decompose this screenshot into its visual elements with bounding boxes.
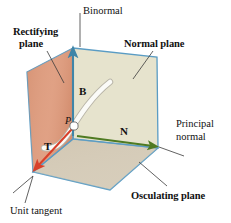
normal-plane-label: Normal plane	[124, 38, 184, 49]
vector-b-label: B	[79, 86, 86, 98]
principal-normal-label-line1: Principal	[176, 118, 214, 129]
unit-tangent-label: Unit tangent	[10, 205, 62, 216]
osculating-plane-leader-line	[139, 162, 167, 186]
binormal-label: Binormal	[83, 5, 123, 16]
normal-plane-face	[73, 48, 158, 148]
point-p-marker	[70, 122, 78, 130]
unit-tangent-leader-line-b	[25, 176, 33, 203]
osculating-plane-label: Osculating plane	[131, 190, 205, 201]
vector-n-label: N	[120, 126, 128, 138]
point-p-label: P	[65, 116, 71, 127]
principal-normal-label-line2: normal	[176, 131, 206, 142]
rectifying-plane-label-line1: Rectifying	[13, 26, 58, 37]
frenet-frame-diagram: Binormal Rectifying plane Normal plane P…	[0, 0, 231, 223]
unit-tangent-leader-line-a	[13, 176, 33, 193]
rectifying-plane-label-line2: plane	[19, 38, 43, 49]
vector-t-label: T	[44, 141, 51, 153]
principal-normal-leader-line	[159, 147, 184, 156]
